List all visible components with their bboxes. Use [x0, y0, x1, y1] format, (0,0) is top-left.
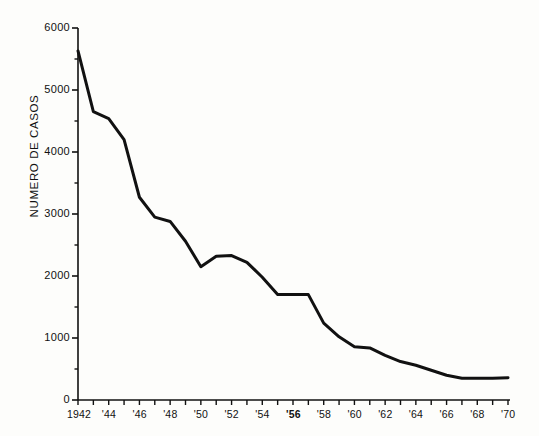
x-tick-label: '70	[501, 408, 515, 420]
x-tick-label: 1942	[67, 408, 91, 420]
y-axis-ticks	[72, 28, 78, 400]
x-tick-label: '58	[317, 408, 331, 420]
x-tick-label: '64	[409, 408, 423, 420]
y-tick-label: 6000	[20, 21, 70, 33]
x-tick-label: '54	[255, 408, 269, 420]
y-tick-label: 4000	[20, 145, 70, 157]
x-tick-label: '44	[102, 408, 116, 420]
y-tick-label: 0	[20, 393, 70, 405]
x-tick-label: '66	[440, 408, 454, 420]
x-tick-label: '52	[225, 408, 239, 420]
y-tick-label: 3000	[20, 207, 70, 219]
x-tick-label: '56	[286, 408, 301, 420]
line-chart-plot	[0, 0, 539, 436]
y-tick-label: 2000	[20, 269, 70, 281]
x-tick-label: '62	[378, 408, 392, 420]
y-tick-label: 5000	[20, 83, 70, 95]
chart-container: NUMERO DE CASOS 010002000300040005000600…	[0, 0, 539, 436]
x-tick-label: '50	[194, 408, 208, 420]
axes-group	[78, 28, 510, 400]
y-tick-label: 1000	[20, 331, 70, 343]
x-tick-label: '48	[163, 408, 177, 420]
data-line-series	[78, 51, 508, 378]
x-tick-label: '68	[470, 408, 484, 420]
x-tick-label: '60	[347, 408, 361, 420]
x-tick-label: '46	[132, 408, 146, 420]
data-series-group	[78, 51, 508, 378]
